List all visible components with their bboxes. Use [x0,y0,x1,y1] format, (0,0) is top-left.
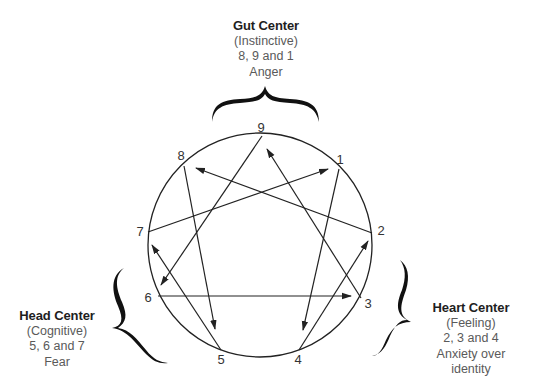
point-label-9: 9 [257,120,264,135]
head-center-title: Head Center [7,308,107,324]
arrow-9-to-6 [161,136,262,285]
point-label-5: 5 [217,352,224,367]
point-label-8: 8 [177,148,184,163]
head-center-brace [112,268,168,363]
gut-center-emotion: Anger [216,65,316,81]
point-label-3: 3 [364,296,371,311]
heart-center-subtitle: (Feeling) [421,316,521,332]
arrow-2-to-8 [196,168,372,233]
heart-center-label: Heart Center (Feeling) 2, 3 and 4 Anxiet… [421,300,521,378]
point-labels: 9 1 2 3 4 5 6 7 8 [136,120,384,367]
point-label-6: 6 [144,290,151,305]
head-center-types: 5, 6 and 7 [7,339,107,355]
head-center-subtitle: (Cognitive) [7,324,107,340]
heart-center-title: Heart Center [421,300,521,316]
gut-center-title: Gut Center [216,18,316,34]
arrow-1-to-4 [303,169,339,330]
heart-center-brace [372,260,411,356]
point-label-1: 1 [336,152,343,167]
arrow-8-to-5 [184,166,215,329]
arrow-lines [148,136,372,350]
heart-center-emotion-line1: Anxiety over [421,347,521,363]
head-center-emotion: Fear [7,355,107,371]
arrow-5-to-7 [152,245,221,350]
gut-center-types: 8, 9 and 1 [216,49,316,65]
gut-center-subtitle: (Instinctive) [216,34,316,50]
heart-center-emotion-line2: identity [421,362,521,378]
gut-center-brace [212,86,319,122]
heart-center-types: 2, 3 and 4 [421,331,521,347]
point-label-4: 4 [294,352,301,367]
gut-center-label: Gut Center (Instinctive) 8, 9 and 1 Ange… [216,18,316,80]
head-center-label: Head Center (Cognitive) 5, 6 and 7 Fear [7,308,107,370]
arrow-7-to-1 [148,169,328,232]
point-label-7: 7 [136,224,143,239]
point-label-2: 2 [377,223,384,238]
